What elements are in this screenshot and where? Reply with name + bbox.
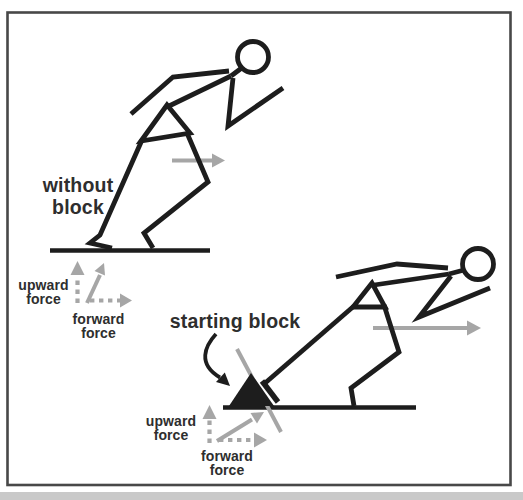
- caption-line: starting block: [170, 311, 301, 333]
- upward-force-arrow-icon: [203, 405, 217, 443]
- caption-line: without: [43, 175, 114, 197]
- torso: [374, 274, 449, 285]
- force-diagram-with-block: [203, 405, 268, 448]
- page-edge-strip: [0, 492, 523, 500]
- resultant-force-arrow-icon: [87, 263, 105, 303]
- front-leg: [144, 133, 208, 248]
- diagram: without block starting block upward forc…: [0, 0, 523, 500]
- front-arm: [228, 78, 283, 126]
- head: [463, 249, 494, 280]
- label-line: force: [72, 327, 124, 341]
- forward-force-label: forward force: [201, 450, 253, 478]
- head: [238, 42, 269, 73]
- forward-force-label: forward force: [72, 313, 124, 341]
- front-leg: [351, 305, 399, 406]
- runner-without-block: [90, 42, 283, 249]
- upward-force-label: upward force: [146, 415, 196, 443]
- upward-force-arrow-icon: [71, 261, 85, 303]
- label-line: force: [201, 464, 253, 478]
- back-arm: [131, 71, 229, 114]
- label-pointer-arrow-icon: [205, 334, 230, 386]
- hip-triangle: [353, 283, 385, 307]
- torso: [167, 76, 231, 107]
- upward-force-label: upward force: [18, 279, 68, 307]
- front-arm: [419, 276, 490, 317]
- scene1-caption: without block: [43, 175, 114, 218]
- diagram-canvas: [0, 0, 523, 500]
- hip-triangle: [141, 105, 190, 141]
- scene2-caption: starting block: [170, 311, 301, 333]
- label-line: force: [18, 293, 68, 307]
- forward-force-arrow-icon: [90, 294, 132, 308]
- label-line: force: [146, 429, 196, 443]
- caption-line: block: [43, 196, 114, 218]
- force-diagram-without-block: [71, 261, 133, 308]
